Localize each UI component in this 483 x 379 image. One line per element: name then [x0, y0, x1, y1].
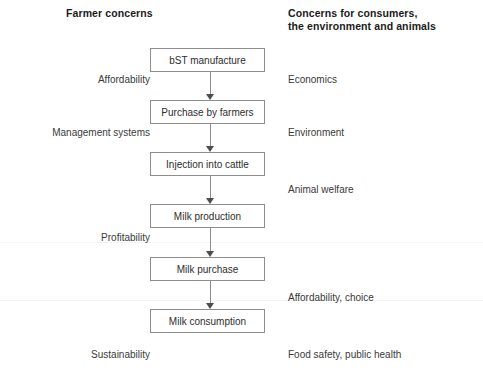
flow-box-bst-manufacture[interactable]: bST manufacture [150, 48, 265, 72]
arrow-head-down-icon [206, 94, 214, 100]
label-sustainability: Sustainability [91, 349, 150, 361]
label-food-safety-public-health: Food safety, public health [288, 349, 401, 361]
arrow-stem [210, 176, 211, 198]
label-affordability-choice: Affordability, choice [288, 292, 374, 304]
flow-box-injection-into-cattle[interactable]: Injection into cattle [150, 152, 265, 176]
flow-box-milk-consumption[interactable]: Milk consumption [150, 309, 265, 333]
arrow-stem [210, 281, 211, 303]
arrow-connector-4 [206, 228, 215, 257]
scan-artifact-line [0, 242, 483, 243]
flow-box-milk-purchase[interactable]: Milk purchase [150, 257, 265, 281]
label-animal-welfare: Animal welfare [288, 184, 354, 196]
label-management-systems: Management systems [52, 127, 150, 139]
arrow-stem [210, 72, 211, 94]
arrow-head-down-icon [206, 198, 214, 204]
arrow-head-down-icon [206, 251, 214, 257]
arrow-stem [210, 228, 211, 251]
column-header-consumer-concerns: Concerns for consumers, the environment … [288, 7, 436, 33]
arrow-head-down-icon [206, 146, 214, 152]
scan-artifact-line [0, 300, 483, 301]
arrow-connector-5 [206, 281, 215, 309]
flow-box-milk-production[interactable]: Milk production [150, 204, 265, 228]
label-economics: Economics [288, 74, 337, 86]
label-profitability: Profitability [101, 232, 150, 244]
diagram-canvas: Farmer concerns Concerns for consumers, … [0, 0, 483, 379]
label-environment: Environment [288, 127, 344, 139]
arrow-stem [210, 124, 211, 146]
label-affordability: Affordability [98, 74, 150, 86]
arrow-connector-3 [206, 176, 215, 204]
arrow-head-down-icon [206, 303, 214, 309]
flow-box-purchase-by-farmers[interactable]: Purchase by farmers [150, 100, 265, 124]
arrow-connector-1 [206, 72, 215, 100]
column-header-farmer-concerns: Farmer concerns [66, 7, 153, 20]
arrow-connector-2 [206, 124, 215, 152]
